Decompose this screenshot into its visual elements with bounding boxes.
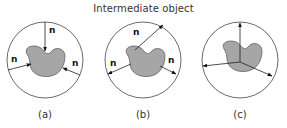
panel-c: (c) [202, 22, 278, 120]
panel-caption: (c) [233, 109, 246, 120]
object-shape [223, 41, 262, 72]
panel-caption: (b) [136, 109, 150, 120]
normal-arrow-right [63, 68, 80, 75]
normal-label: n [133, 27, 139, 37]
normal-arrow-left [8, 64, 31, 70]
panel-b: n n n (b) [105, 22, 181, 120]
panel-a: n n n (a) [7, 22, 83, 120]
object-shape [26, 46, 65, 77]
normal-label: n [168, 55, 174, 65]
normal-label: n [49, 25, 55, 35]
normal-label: n [110, 58, 116, 68]
panel-caption: (a) [38, 109, 52, 120]
object-shape [126, 46, 165, 77]
normal-arrow-right [160, 66, 176, 74]
normal-label: n [72, 58, 78, 68]
normal-label: n [11, 54, 17, 64]
diagram-canvas: n n n (a) n n n (b) (c) [0, 0, 287, 128]
